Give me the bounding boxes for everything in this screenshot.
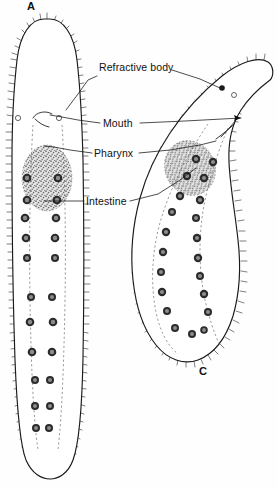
nucleus [196, 196, 204, 204]
nucleus [46, 376, 54, 384]
nucleus [21, 214, 30, 223]
nucleus [53, 196, 62, 205]
nucleus [46, 402, 54, 410]
refractive-body-a-left [15, 115, 20, 120]
label-mouth: Mouth [103, 117, 133, 129]
nucleus [200, 326, 208, 334]
nucleus [162, 228, 170, 236]
nucleus [52, 214, 61, 223]
nucleus [48, 293, 56, 301]
nucleus [23, 196, 32, 205]
nucleus [163, 307, 171, 315]
nucleus [49, 318, 58, 327]
label-refractive-body: Refractive body [99, 61, 174, 73]
label-intestine: Intestine [86, 195, 127, 207]
body-outline-a [12, 19, 84, 479]
refractive-body-c-inner [232, 93, 237, 98]
nucleus [183, 172, 191, 180]
nucleus [196, 272, 204, 280]
nucleus [22, 234, 31, 243]
nucleus [200, 174, 208, 182]
nucleus [27, 293, 35, 301]
nucleus [31, 376, 39, 384]
nucleus [192, 214, 200, 222]
nucleus [168, 208, 176, 216]
nucleus [193, 234, 201, 242]
nucleus [51, 254, 59, 262]
nucleus [23, 254, 31, 262]
label-pharynx: Pharynx [94, 147, 134, 159]
nucleus [171, 324, 179, 332]
figure-root: A C Refractive body Mouth Pharynx Intest… [0, 0, 278, 489]
nucleus [23, 174, 32, 183]
nucleus [26, 318, 35, 327]
nucleus [194, 254, 202, 262]
nucleus [48, 348, 57, 357]
nucleus [159, 248, 167, 256]
organism-a [6, 13, 90, 479]
panel-label-c: C [199, 365, 207, 377]
nucleus [192, 155, 200, 163]
nucleus [31, 402, 39, 410]
nucleus [158, 288, 166, 296]
nucleus [157, 268, 165, 276]
nucleus [200, 290, 208, 298]
nucleus [54, 174, 63, 183]
nucleus [32, 424, 40, 432]
nucleus [51, 234, 60, 243]
nucleus [209, 158, 217, 166]
panel-label-a: A [27, 0, 35, 12]
nucleus [45, 424, 53, 432]
nucleus [176, 192, 184, 200]
nucleus [28, 348, 37, 357]
nucleus [188, 330, 196, 338]
nucleus [204, 308, 212, 316]
anatomy-figure: A C Refractive body Mouth Pharynx Intest… [0, 0, 278, 489]
